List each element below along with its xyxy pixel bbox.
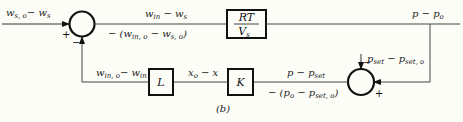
summing-junction-2 [348, 69, 374, 95]
input-signal-label: ws, o− ws [6, 7, 51, 20]
feedback-signal-label: win, o− win [96, 67, 147, 80]
bottom-upper-signal-label: p − pset [287, 67, 325, 80]
block-diagram: ws, o− ws + − win − ws − (win, o − ws, o… [0, 0, 463, 122]
figure-caption: (b) [216, 103, 230, 114]
sum1-minus-sign: − [72, 37, 80, 48]
block-l-label: L [156, 76, 164, 89]
x-signal-label: xo − x [188, 67, 219, 80]
top-upper-signal-label: win − ws [145, 8, 188, 21]
bottom-lower-signal-label: − (po − pset, o) [268, 87, 338, 100]
setpoint-signal-label: pset − pset, o [367, 53, 424, 66]
sum2-plus-sign: + [375, 88, 383, 99]
top-lower-signal-label: − (win, o − ws, o) [108, 28, 187, 41]
sum1-plus-sign: + [62, 29, 70, 40]
sum2-minus-sign: − [363, 57, 371, 68]
summing-junction-1 [70, 12, 95, 37]
block-k-label: K [235, 76, 245, 89]
output-signal-label: p − po [412, 8, 444, 21]
block-rt-numerator: RT [238, 11, 256, 24]
